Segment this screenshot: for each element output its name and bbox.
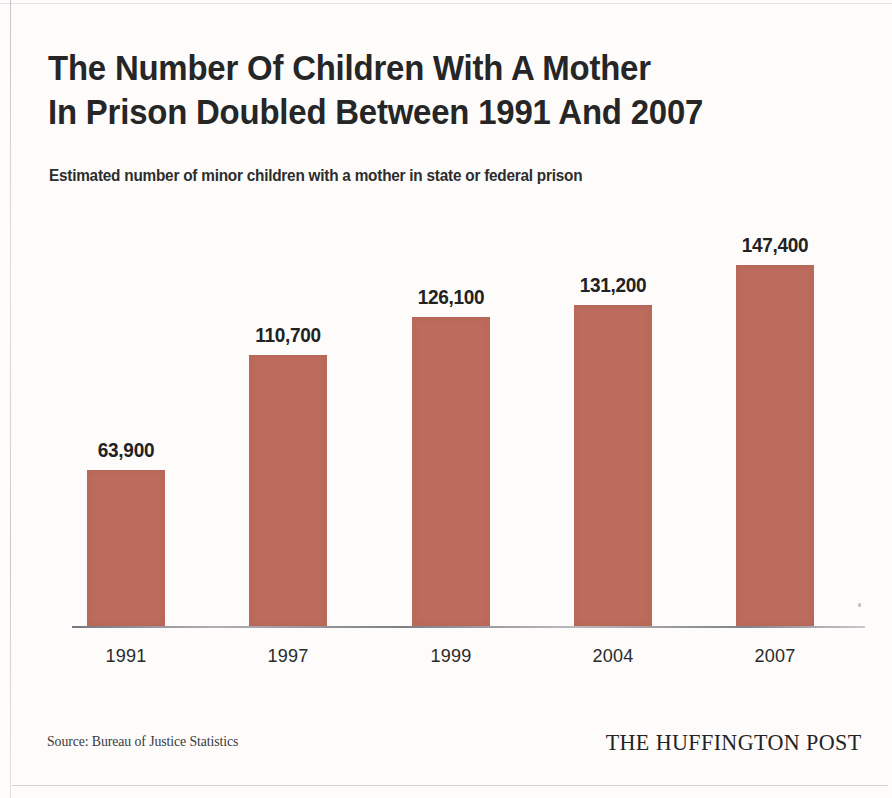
bar-value-1997: 110,700 [212, 324, 364, 347]
x-tick-2004: 2004 [537, 645, 689, 667]
x-axis-baseline [72, 626, 865, 628]
bar-1999 [412, 317, 490, 626]
bar-2007 [736, 265, 814, 626]
bar-1997 [249, 355, 327, 626]
x-tick-1997: 1997 [212, 645, 364, 667]
bar-2004 [574, 305, 652, 626]
bar-value-1999: 126,100 [375, 286, 527, 309]
bar-value-2004: 131,200 [537, 274, 689, 297]
bar-1991 [87, 470, 165, 626]
bar-value-2007: 147,400 [699, 234, 851, 257]
x-tick-1991: 1991 [50, 645, 202, 667]
x-tick-2007: 2007 [699, 645, 851, 667]
chart-page: The Number Of Children With A Mother In … [0, 0, 892, 798]
x-tick-1999: 1999 [375, 645, 527, 667]
plot-area: 63,9001991110,7001997126,1001999131,2002… [0, 0, 892, 798]
bar-value-1991: 63,900 [50, 439, 202, 462]
source-note: Source: Bureau of Justice Statistics [47, 733, 238, 750]
publisher-logo: THE HUFFINGTON POST [606, 730, 862, 756]
